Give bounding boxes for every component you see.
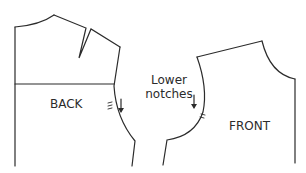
front-shoulder bbox=[197, 41, 262, 57]
front-piece bbox=[163, 41, 295, 165]
front-arrowhead bbox=[191, 104, 197, 109]
annotation-line-2: notches bbox=[139, 87, 199, 101]
front-neckline bbox=[262, 41, 295, 79]
back-shoulder-dart bbox=[54, 15, 120, 58]
back-neckline bbox=[15, 15, 54, 27]
front-notch-marks bbox=[200, 114, 205, 118]
back-notch-marks bbox=[108, 102, 112, 109]
back-label: BACK bbox=[50, 97, 82, 111]
pattern-diagram: BACK FRONT Lower notches bbox=[0, 0, 306, 173]
annotation-line-1: Lower bbox=[139, 73, 199, 87]
back-armhole bbox=[114, 47, 135, 166]
front-label: FRONT bbox=[229, 119, 270, 133]
back-piece bbox=[15, 15, 135, 166]
